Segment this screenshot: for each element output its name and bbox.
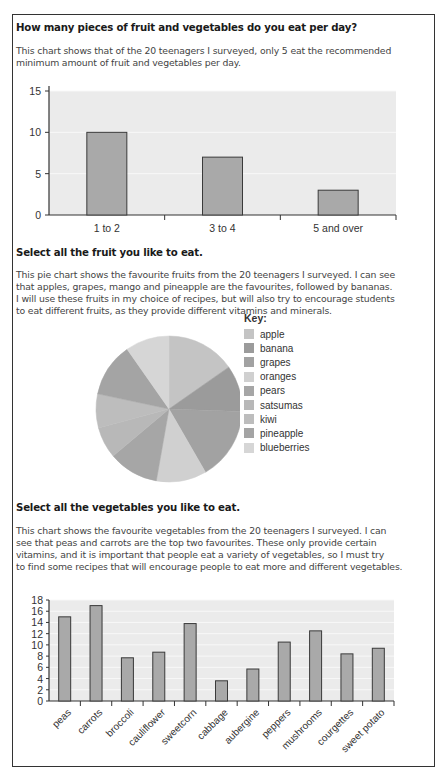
bar	[247, 669, 259, 701]
legend-label: oranges	[260, 371, 296, 382]
legend-label: kiwi	[260, 414, 277, 425]
legend-swatch	[244, 329, 254, 339]
legend-title: Key:	[244, 312, 309, 324]
bar	[90, 606, 102, 701]
pie-legend: Key: applebananagrapesorangespearssatsum…	[244, 312, 309, 455]
bar	[153, 652, 165, 701]
bar	[121, 658, 133, 701]
legend-item-oranges: oranges	[244, 370, 309, 384]
description-line: to eat different fruits, as they provide…	[16, 305, 411, 317]
bar	[341, 654, 353, 701]
legend-item-satsumas: satsumas	[244, 398, 309, 412]
legend-label: apple	[260, 329, 284, 340]
bar	[278, 642, 290, 701]
y-tick-label: 6	[37, 661, 43, 673]
x-tick-label: peas	[50, 707, 73, 730]
legend-item-grapes: grapes	[244, 355, 309, 369]
description-vegetables: This chart shows the favourite vegetable…	[16, 525, 411, 573]
y-tick-label: 10	[31, 639, 43, 651]
legend-label: grapes	[260, 357, 291, 368]
question-vegetables: Select all the vegetables you like to ea…	[16, 502, 240, 513]
y-tick-label: 5	[35, 168, 41, 180]
bar	[184, 624, 196, 701]
legend-label: satsumas	[260, 400, 303, 411]
y-tick-label: 12	[31, 628, 43, 640]
legend-swatch	[244, 443, 254, 453]
y-tick-label: 15	[29, 85, 41, 97]
x-tick-label: 5 and over	[313, 222, 363, 234]
description-line: vitamins, and it is important that peopl…	[16, 549, 411, 561]
legend-swatch	[244, 343, 254, 353]
legend-swatch	[244, 400, 254, 410]
legend-label: pears	[260, 385, 285, 396]
legend-item-apple: apple	[244, 327, 309, 341]
y-tick-label: 8	[37, 650, 43, 662]
y-tick-label: 4	[37, 673, 43, 685]
question-fruit: Select all the fruit you like to eat.	[16, 247, 203, 258]
bar	[310, 631, 322, 701]
legend-label: blueberries	[260, 442, 309, 453]
y-tick-label: 10	[29, 126, 41, 138]
x-tick-label: carrots	[75, 707, 104, 736]
legend-swatch	[244, 414, 254, 424]
description-line: This chart shows the favourite vegetable…	[16, 525, 411, 537]
portions-bar-chart: 0510151 to 23 to 45 and over	[0, 0, 448, 240]
y-tick-label: 18	[31, 594, 43, 606]
legend-item-pineapple: pineapple	[244, 426, 309, 440]
bar	[372, 648, 384, 701]
description-line: I will use these fruits in my choice of …	[16, 293, 411, 305]
legend-item-blueberries: blueberries	[244, 441, 309, 455]
legend-item-pears: pears	[244, 384, 309, 398]
bar	[59, 617, 71, 701]
fruit-pie-chart	[0, 320, 240, 500]
legend-item-banana: banana	[244, 341, 309, 355]
y-tick-label: 0	[35, 209, 41, 221]
y-tick-label: 14	[31, 616, 43, 628]
y-tick-label: 2	[37, 684, 43, 696]
description-line: see that peas and carrots are the top tw…	[16, 537, 411, 549]
x-tick-label: 1 to 2	[94, 222, 120, 234]
vegetables-bar-chart: 024681012141618peascarrotsbroccolicaulif…	[0, 590, 448, 765]
description-line: This pie chart shows the favourite fruit…	[16, 269, 411, 281]
legend-label: banana	[260, 343, 293, 354]
y-tick-label: 0	[37, 695, 43, 707]
bar	[203, 157, 243, 215]
bar	[318, 190, 358, 215]
bar	[87, 132, 127, 215]
description-fruit: This pie chart shows the favourite fruit…	[16, 269, 411, 317]
legend-swatch	[244, 372, 254, 382]
x-tick-label: aubergine	[222, 706, 262, 746]
bar	[216, 681, 228, 701]
legend-swatch	[244, 428, 254, 438]
description-line: that apples, grapes, mango and pineapple…	[16, 281, 411, 293]
legend-label: pineapple	[260, 428, 303, 439]
x-tick-label: 3 to 4	[209, 222, 235, 234]
description-line: to find some recipes that will encourage…	[16, 561, 411, 573]
y-tick-label: 16	[31, 605, 43, 617]
legend-item-kiwi: kiwi	[244, 412, 309, 426]
legend-swatch	[244, 357, 254, 367]
legend-swatch	[244, 386, 254, 396]
